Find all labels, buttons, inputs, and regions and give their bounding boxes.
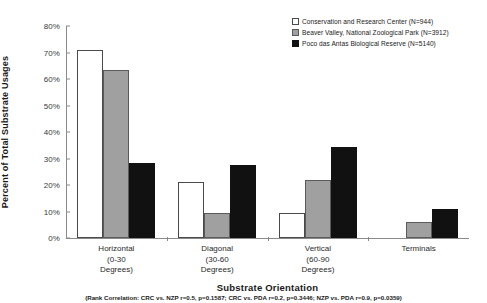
bar-nzp[interactable] xyxy=(103,70,129,238)
legend-label: Conservation and Research Center (N=944) xyxy=(302,18,433,25)
legend-swatch-nzp xyxy=(292,29,299,36)
bar-crc[interactable] xyxy=(178,182,204,238)
legend-label: Beaver Valley, National Zoological Park … xyxy=(302,29,449,36)
bar-pda[interactable] xyxy=(230,165,256,238)
x-axis-tick-label-line: Degrees) xyxy=(268,265,369,276)
x-axis-tick-label: Diagonal(30-60Degrees) xyxy=(167,244,268,276)
substrate-orientation-bar-chart: Percent of Total Substrate Usages 80%70%… xyxy=(0,0,487,303)
bar-group xyxy=(66,26,167,238)
y-axis-tick-label: 0% xyxy=(48,234,66,243)
y-axis-tick-label: 50% xyxy=(44,101,66,110)
bar-group-bars xyxy=(66,26,167,238)
bar-group-bars xyxy=(268,26,369,238)
bar-nzp[interactable] xyxy=(406,222,432,238)
legend-item[interactable]: Conservation and Research Center (N=944) xyxy=(292,18,449,25)
bar-group xyxy=(268,26,369,238)
y-axis-title: Percent of Total Substrate Usages xyxy=(0,26,12,238)
x-axis-tick-label: Vertical(60-90Degrees) xyxy=(268,244,369,276)
y-axis-tick-label: 60% xyxy=(44,75,66,84)
bar-pda[interactable] xyxy=(331,147,357,238)
x-axis-separator-tick xyxy=(268,237,269,241)
bar-crc[interactable] xyxy=(279,213,305,238)
y-axis-tick-label: 10% xyxy=(44,207,66,216)
x-axis-separator-tick xyxy=(167,237,168,241)
x-axis-tick-label-line: Vertical xyxy=(268,244,369,255)
bar-group-bars xyxy=(368,26,469,238)
x-axis-tick-label-line: Diagonal xyxy=(167,244,268,255)
x-axis-tick-label: Horizontal(0-30Degrees) xyxy=(66,244,167,276)
y-axis-tick-label: 80% xyxy=(44,22,66,31)
legend-label: Poco das Antas Biological Reserve (N=514… xyxy=(302,40,436,47)
plot-area: 80%70%60%50%40%30%20%10%0% xyxy=(66,26,469,238)
bar-nzp[interactable] xyxy=(204,213,230,238)
bar-group xyxy=(368,26,469,238)
x-axis-tick-labels: Horizontal(0-30Degrees)Diagonal(30-60Deg… xyxy=(66,244,469,276)
bar-nzp[interactable] xyxy=(305,180,331,238)
legend-item[interactable]: Beaver Valley, National Zoological Park … xyxy=(292,29,449,36)
chart-legend: Conservation and Research Center (N=944)… xyxy=(292,18,449,51)
bar-crc[interactable] xyxy=(77,50,103,238)
x-axis-tick-label-line: (0-30 xyxy=(66,255,167,266)
x-axis-tick-label-line: Degrees) xyxy=(66,265,167,276)
bar-group-bars xyxy=(167,26,268,238)
x-axis-tick-label-line: (60-90 xyxy=(268,255,369,266)
legend-swatch-crc xyxy=(292,18,299,25)
y-axis-tick-label: 30% xyxy=(44,154,66,163)
bar-pda[interactable] xyxy=(129,163,155,238)
bar-groups xyxy=(66,26,469,238)
chart-annotation: (Rank Correlation: CRC vs. NZP r=0.5, p=… xyxy=(0,294,487,301)
x-axis-tick-label-line: (30-60 xyxy=(167,255,268,266)
x-axis-tick-label-line xyxy=(368,265,469,276)
bar-pda[interactable] xyxy=(432,209,458,238)
x-axis-separator-tick xyxy=(368,237,369,241)
x-axis-tick-label-line: Degrees) xyxy=(167,265,268,276)
x-axis-tick-label-line: Horizontal xyxy=(66,244,167,255)
legend-item[interactable]: Poco das Antas Biological Reserve (N=514… xyxy=(292,40,449,47)
y-axis-tick-label: 40% xyxy=(44,128,66,137)
x-axis-title: Substrate Orientation xyxy=(66,282,469,293)
x-axis-tick-label-line: Terminals xyxy=(368,244,469,255)
x-axis-tick-label: Terminals xyxy=(368,244,469,276)
bar-group xyxy=(167,26,268,238)
y-axis-tick-label: 20% xyxy=(44,181,66,190)
x-axis-tick-label-line xyxy=(368,255,469,266)
legend-swatch-pda xyxy=(292,40,299,47)
y-axis-tick-label: 70% xyxy=(44,48,66,57)
